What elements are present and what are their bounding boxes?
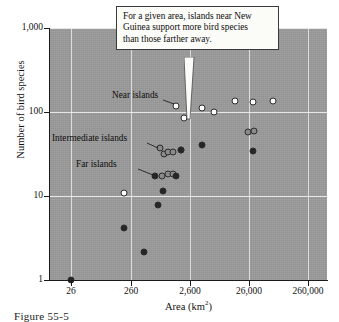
y-tick-100 [44, 112, 49, 113]
callout-line-2: Guinea support more bird species [123, 22, 273, 33]
annotation-far-islands: Far islands [76, 159, 117, 169]
x-axis-line [49, 280, 328, 281]
annotation-intermediate-islands: Intermediate islands [52, 133, 127, 143]
annotation-near-islands: Near islands [112, 90, 158, 100]
y-tick-1000 [44, 28, 49, 29]
x-tick-label-260000: 260,000 [293, 286, 324, 296]
callout-pointer [184, 57, 206, 121]
y-tick-label-1: 1 [38, 274, 43, 284]
x-tick-label-260: 260 [124, 286, 138, 296]
x-axis-title-tail: ) [208, 301, 212, 312]
x-axis-title: Area (km2) [50, 299, 327, 312]
x-tick-label-2600: 2,600 [179, 286, 200, 296]
y-tick-label-10: 10 [34, 190, 44, 200]
callout-line-1: For a given area, islands near New [123, 11, 273, 22]
y-tick-10 [44, 196, 49, 197]
callout-line-3: than those farther away. [123, 34, 273, 45]
y-tick-label-100: 100 [29, 106, 43, 116]
y-tick-1 [44, 280, 49, 281]
x-tick-label-26: 26 [66, 286, 76, 296]
y-axis-title: Number of bird species [15, 30, 26, 190]
figure-caption: Figure 55-5 [14, 310, 69, 322]
x-axis-title-base: Area (km [165, 301, 205, 312]
callout-box: For a given area, islands near New Guine… [116, 6, 279, 50]
x-tick-label-26000: 26,000 [236, 286, 262, 296]
